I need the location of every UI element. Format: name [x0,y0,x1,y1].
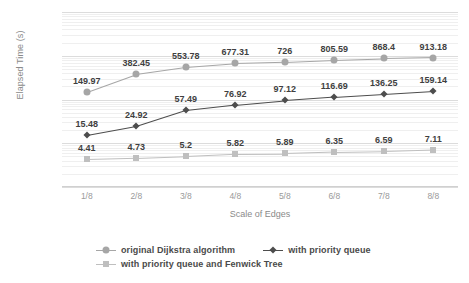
data-point-marker [232,151,238,157]
data-point-marker [183,153,189,159]
legend-item-with-priority-queue[interactable]: with priority queue [263,245,370,255]
data-point-label: 6.35 [326,136,344,146]
legend-label: with priority queue and Fenwick Tree [121,259,283,269]
data-point-marker [381,148,387,154]
data-point-label: 5.89 [276,137,294,147]
data-point-marker [84,156,90,162]
data-point-marker [133,155,139,161]
data-point-label: 6.59 [375,135,393,145]
elapsed-time-line-chart: Elapsed Time (s) 1101001k10k 1/82/83/84/… [0,0,469,283]
series-line-segment [136,156,186,159]
data-point-marker [331,149,337,155]
legend-label: original Dijkstra algorithm [121,245,235,255]
data-point-label: 7.11 [425,134,442,144]
data-point-label: 5.2 [180,140,193,150]
chart-legend: original Dijkstra algorithm with priorit… [96,243,416,271]
y-axis-title: Elapsed Time (s) [15,5,25,125]
x-tick-label: 8/8 [403,191,463,201]
series-line-segment [334,151,384,153]
series-line-segment [235,153,285,154]
plot-area: 1101001k10k 1/82/83/84/85/86/87/88/8 149… [62,12,458,187]
series-square: 4.414.735.25.825.896.356.597.11 [62,12,458,187]
series-line-segment [285,152,335,154]
series-line-segment [186,154,235,157]
data-point-label: 4.41 [78,143,96,153]
legend-item-with-priority-queue-and-fenwick-tree[interactable]: with priority queue and Fenwick Tree [96,259,283,269]
legend-label: with priority queue [288,245,370,255]
legend-row-2: with priority queue and Fenwick Tree [96,257,416,271]
legend-row-1: original Dijkstra algorithm with priorit… [96,243,416,257]
data-point-marker [430,147,436,153]
legend-key-circle-icon [96,245,116,255]
legend-key-square-icon [96,259,116,269]
x-axis-title: Scale of Edges [62,209,458,219]
legend-item-original-dijkstra-algorithm[interactable]: original Dijkstra algorithm [96,245,235,255]
legend-key-diamond-icon [263,245,283,255]
data-point-label: 5.82 [227,138,245,148]
data-point-marker [282,150,288,156]
series-line-segment [384,150,434,152]
data-point-label: 4.73 [128,142,146,152]
series-line-segment [87,157,137,159]
gridline-major [62,187,458,188]
